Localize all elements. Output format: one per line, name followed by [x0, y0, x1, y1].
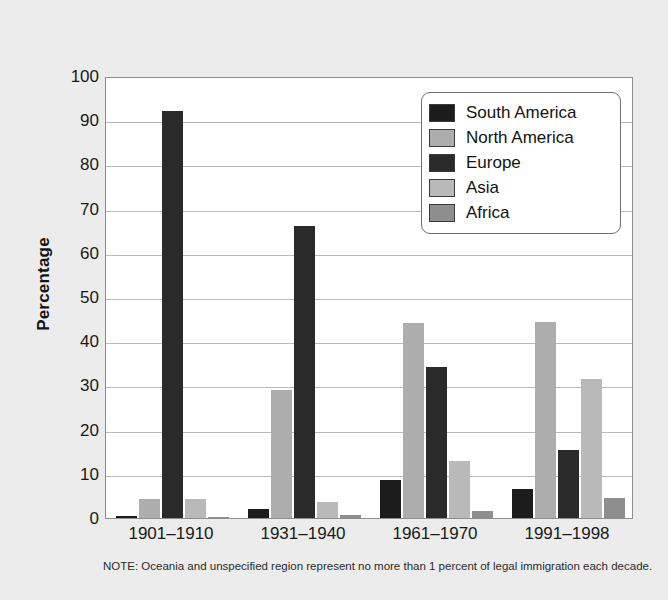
y-tick-label: 40	[5, 333, 99, 350]
bar	[162, 111, 183, 518]
bar	[558, 450, 579, 518]
y-tick-label: 60	[5, 245, 99, 262]
bar	[512, 489, 533, 518]
bar	[248, 509, 269, 518]
bar	[581, 379, 602, 518]
y-tick-label: 30	[5, 377, 99, 394]
bar	[340, 515, 361, 518]
bar	[294, 226, 315, 518]
bar	[116, 516, 137, 518]
bar	[535, 322, 556, 518]
y-tick-label: 20	[5, 422, 99, 439]
y-tick-label: 50	[5, 289, 99, 306]
bar	[139, 499, 160, 518]
y-tick-label: 0	[5, 510, 99, 527]
legend-item: Europe	[429, 150, 611, 175]
bar	[472, 511, 493, 518]
x-axis-tick-labels: 1901–19101931–19401961–19701991–1998	[105, 524, 633, 548]
legend-label: South America	[466, 103, 577, 123]
legend-swatch	[429, 204, 455, 222]
legend-swatch	[429, 129, 455, 147]
bar	[208, 517, 229, 519]
x-tick-label: 1961–1970	[369, 524, 501, 544]
chart-footnote: NOTE: Oceania and unspecified region rep…	[103, 560, 648, 572]
bar	[426, 367, 447, 518]
y-tick-label: 70	[5, 201, 99, 218]
legend-swatch	[429, 179, 455, 197]
y-axis-tick-labels: 0102030405060708090100	[0, 0, 99, 600]
bar	[403, 323, 424, 518]
legend-item: South America	[429, 100, 611, 125]
chart-figure: Percentage 0102030405060708090100 1901–1…	[0, 0, 668, 600]
bar	[449, 461, 470, 518]
x-tick-label: 1931–1940	[237, 524, 369, 544]
y-tick-label: 80	[5, 156, 99, 173]
legend-swatch	[429, 104, 455, 122]
legend-item: North America	[429, 125, 611, 150]
y-tick-label: 100	[5, 68, 99, 85]
y-tick-label: 10	[5, 466, 99, 483]
bar	[604, 498, 625, 518]
legend-label: Europe	[466, 153, 521, 173]
legend-item: Asia	[429, 175, 611, 200]
bar	[185, 499, 206, 518]
x-tick-label: 1901–1910	[105, 524, 237, 544]
legend-swatch	[429, 154, 455, 172]
bar	[271, 390, 292, 518]
legend-label: North America	[466, 128, 574, 148]
y-tick-label: 90	[5, 112, 99, 129]
legend-item: Africa	[429, 200, 611, 225]
chart-legend: South AmericaNorth AmericaEuropeAsiaAfri…	[421, 92, 621, 234]
bar	[380, 480, 401, 518]
bar	[317, 502, 338, 518]
legend-label: Africa	[466, 203, 509, 223]
legend-label: Asia	[466, 178, 499, 198]
x-tick-label: 1991–1998	[501, 524, 633, 544]
